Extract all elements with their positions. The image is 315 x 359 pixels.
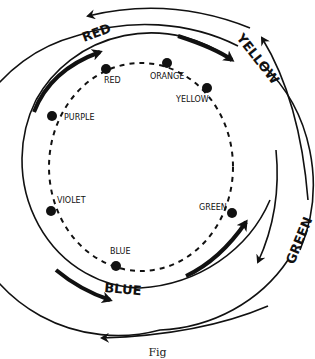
label-yellow: YELLOW (175, 95, 209, 104)
outer-label-red: RED (80, 21, 113, 45)
label-violet: VIOLET (57, 196, 86, 205)
label-orange: ORANGE (150, 72, 184, 81)
point-red (101, 64, 111, 74)
outer-label-green: GREEN (283, 215, 315, 266)
figure-caption: Fig (0, 346, 315, 359)
label-green: GREEN (199, 203, 227, 212)
label-red: RED (104, 76, 121, 85)
point-orange (162, 58, 172, 68)
label-purple: PURPLE (64, 113, 95, 122)
point-green (227, 208, 237, 218)
bold-arrows (34, 36, 246, 300)
inner-points (46, 58, 237, 271)
point-violet (46, 206, 56, 216)
outer-label-blue: BLUE (104, 280, 142, 298)
label-blue: BLUE (110, 247, 130, 256)
point-purple (47, 111, 57, 121)
inner-labels: RED ORANGE YELLOW PURPLE VIOLET GREEN BL… (57, 72, 227, 256)
outer-labels: RED YELLOW GREEN BLUE (80, 21, 315, 299)
point-yellow (202, 83, 212, 93)
point-blue (111, 261, 121, 271)
